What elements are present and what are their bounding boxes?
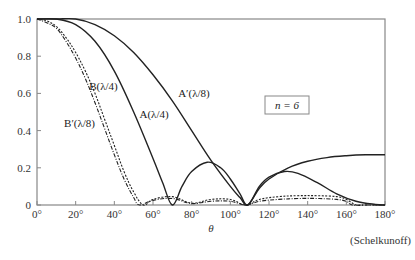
y-tick-label: 0 [26, 199, 32, 211]
credit-text: (Schelkunoff) [350, 234, 411, 246]
x-tick-label: 140° [297, 208, 318, 220]
x-tick-label: 60° [145, 208, 160, 220]
annotation-box: n = 6 [265, 96, 309, 114]
annotation-text: n = 6 [275, 99, 299, 111]
curve-B(λ/4) [37, 19, 385, 205]
curves [37, 19, 385, 206]
x-tick-label: 120° [259, 208, 280, 220]
x-tick-label: 180° [375, 208, 396, 220]
curve-label: B(λ/4) [89, 80, 118, 93]
curve-label: A′(λ/8) [178, 87, 210, 100]
x-tick-label: 80° [184, 208, 199, 220]
curve-label: B′(λ/8) [64, 117, 95, 130]
y-tick-label: 0.2 [17, 162, 31, 174]
curve-labels: A′(λ/8)A(λ/4)B(λ/4)B′(λ/8) [64, 80, 210, 130]
y-tick-label: 0.4 [17, 125, 31, 137]
x-tick-label: 40° [107, 208, 122, 220]
x-axis-label: θ [208, 222, 214, 234]
curve-B′(λ/8) [37, 19, 385, 205]
curve-label: A(λ/4) [139, 108, 168, 121]
y-tick-label: 1.0 [17, 13, 31, 25]
y-tick-label: 0.6 [17, 87, 31, 99]
chart: 0°20°40°60°80°100°120°140°160°180°00.20.… [0, 0, 415, 260]
y-tick-label: 0.8 [17, 50, 31, 62]
curve-A′(λ/8) [37, 19, 385, 206]
x-tick-label: 0° [32, 208, 42, 220]
x-tick-label: 20° [68, 208, 83, 220]
plot-frame [37, 19, 385, 205]
curve-A(λ/4) [37, 19, 385, 206]
axes [37, 19, 385, 205]
x-tick-label: 100° [220, 208, 241, 220]
x-tick-label: 160° [336, 208, 357, 220]
